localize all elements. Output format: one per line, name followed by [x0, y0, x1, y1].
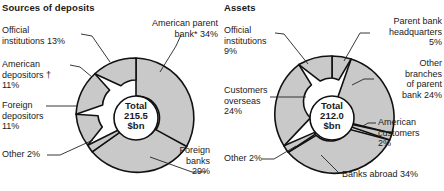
leader-american-depositors	[70, 65, 92, 77]
label-other-branches-of-parent: Other branches of parent bank 24%	[352, 58, 442, 100]
leader-official-institutions	[81, 34, 110, 62]
label-customers-overseas: Customers overseas 24%	[224, 85, 268, 117]
donut-center-total: Total 215.5 $bn	[112, 101, 160, 131]
slice-customers-overseas	[275, 65, 312, 146]
label-american-parent-bank: American parent bank* 34%	[112, 18, 218, 39]
label-foreign-banks: Foreign banks 29%	[132, 145, 210, 177]
label-american-depositors: American depositors † 11%	[2, 59, 51, 91]
label-official-institutions: Official institutions 9%	[224, 25, 267, 57]
label-american-customers: American customers 2%	[378, 117, 420, 149]
label-other: Other 2%	[2, 149, 40, 160]
label-other-assets: Other 2%	[224, 153, 262, 164]
label-parent-bank-headquarters: Parent bank headquarters 5%	[348, 16, 442, 48]
chart-panel-assets: Assets Offi	[222, 0, 444, 191]
leader-official-institutions	[275, 33, 308, 64]
donut-center-total: Total 212.0 $bn	[308, 101, 356, 131]
label-banks-abroad: Banks abroad 34%	[342, 169, 418, 180]
center-total-units: $bn	[308, 121, 356, 131]
center-total-units: $bn	[112, 121, 160, 131]
label-foreign-depositors: Foreign depositors 11%	[2, 100, 44, 132]
slice-american-depositors	[76, 74, 109, 115]
leader-american-parent-bank	[160, 35, 181, 72]
label-official-institutions: Official institutions 13%	[2, 25, 65, 46]
chart-panel-sources-of-deposits: Sources of deposits	[0, 0, 222, 191]
